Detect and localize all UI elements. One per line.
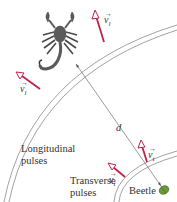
beetle-icon (158, 184, 171, 196)
scorpion-icon (39, 12, 78, 69)
diagram-graphics (0, 0, 177, 202)
scorpion-beetle-pulse-diagram: → vl → vl → vt → vt d Longitudinal pulse… (0, 0, 177, 202)
beetle-label: Beetle (129, 185, 156, 196)
velocity-arrow-vl-top (92, 10, 104, 42)
vector-label-vl-top: → vl (104, 15, 110, 29)
vector-label-vt-right: → vt (148, 150, 154, 164)
vector-label-vl-left: → vl (20, 84, 26, 98)
longitudinal-label-line1: Longitudinal (21, 143, 75, 154)
velocity-arrow-vt-right (138, 140, 147, 162)
vector-arrow-glyph: → (105, 9, 112, 19)
distance-label: d (116, 122, 121, 133)
transverse-label-line2: pulses (70, 187, 96, 198)
vector-arrow-glyph: → (149, 144, 156, 154)
transverse-label-line1: Transverse (70, 175, 116, 186)
longitudinal-label-line2: pulses (21, 155, 47, 166)
vector-arrow-glyph: → (21, 78, 28, 88)
